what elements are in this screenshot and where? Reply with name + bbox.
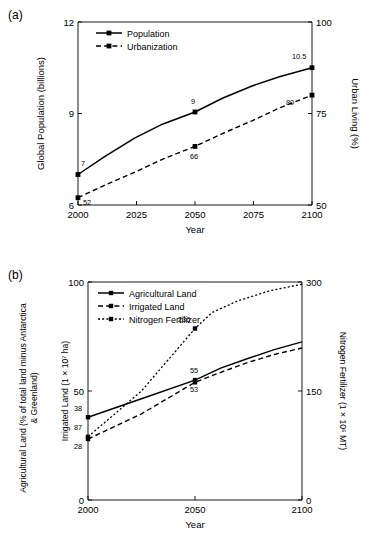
panel-b-xtick-2: 2100 [291, 504, 312, 515]
panel-a-xtick-1: 2025 [126, 209, 147, 220]
panel-b-label-irrig-2050: 53 [190, 385, 198, 394]
panel-a-plot: 6 9 12 50 75 100 2000 2025 [0, 0, 374, 272]
panel-a-label-pop-2050: 9 [191, 97, 195, 106]
panel-b-yaxis-title-inner: Irrigated Land (1 × 10⁷ ha) [60, 341, 70, 441]
panel-a-x-ticks: 2000 2025 2050 2075 2100 [67, 201, 322, 220]
panel-b-label-agri-2050: 55 [190, 366, 198, 375]
legend-b-marker-nitrogen [109, 317, 113, 321]
panel-b-series-nitrogen-line [88, 284, 302, 437]
svg-text:& Greenland): & Greenland) [29, 372, 39, 423]
panel-a-y2tick-2: 100 [316, 17, 332, 28]
panel-b-xaxis-title: Year [185, 519, 204, 530]
panel-a-xtick-2: 2050 [184, 209, 205, 220]
panel-a-y2axis-title: Urban Living (%) [350, 78, 361, 149]
legend-b-label-irrigated: Irrigated Land [129, 302, 185, 312]
panel-b-label: (b) [8, 268, 23, 282]
panel-a-yaxis-title: Global Population (billions) [35, 57, 46, 170]
panel-a-label-pop-2000: 7 [81, 159, 85, 168]
legend-b-marker-agricultural [109, 291, 113, 295]
legend-b-label-agricultural: Agricultural Land [129, 289, 197, 299]
panel-a-xtick-0: 2000 [67, 209, 88, 220]
panel-a-label-pop-2100: 10.5 [292, 52, 306, 61]
scientific-figure: (a) 6 9 12 50 75 100 [0, 0, 374, 553]
panel-a-label-urb-2100: 80 [286, 98, 294, 107]
panel-b-y2axis-title: Nitrogen Fertilizer (1 × 10⁶ MT) [338, 332, 348, 451]
legend-b-label-nitrogen: Nitrogen Fertilizer [129, 315, 200, 325]
panel-a-legend: Population Urbanization [96, 29, 178, 52]
legend-a-marker-urbanization [107, 44, 112, 49]
panel-b-y2tick-2: 300 [306, 277, 322, 288]
panel-b-ytick-2: 100 [68, 277, 84, 288]
panel-a-xtick-4: 2100 [301, 209, 322, 220]
panel-a-ytick-2: 12 [63, 17, 74, 28]
panel-b-plot: 0 50 100 0 150 300 2000 2050 2100 [0, 272, 374, 553]
legend-a-label-population: Population [127, 29, 170, 39]
panel-a-label-urb-2000: 52 [83, 198, 91, 207]
panel-b-y2tick-1: 150 [306, 386, 322, 397]
panel-b-x-ticks: 2000 2050 2100 [77, 496, 312, 515]
panel-a-series-urbanization-markers [76, 93, 315, 200]
legend-b-marker-irrigated [109, 304, 113, 308]
panel-b-series-nitrogen-markers [86, 326, 197, 439]
panel-b-yaxis-title: Agricultural Land (% of total land minus… [18, 303, 39, 493]
panel-a-xtick-3: 2075 [243, 209, 264, 220]
panel-b-xtick-0: 2000 [77, 504, 98, 515]
panel-a: (a) 6 9 12 50 75 100 [0, 0, 374, 272]
panel-a-y2tick-1: 75 [316, 108, 327, 119]
panel-a-left-ticks: 6 9 12 [63, 17, 82, 211]
panel-b-series-irrigated-markers [86, 380, 197, 441]
svg-text:Agricultural Land (% of total: Agricultural Land (% of total land minus… [18, 303, 28, 493]
panel-b: (b) 0 50 100 0 150 3 [0, 272, 374, 553]
panel-b-label-agri-2000: 38 [74, 404, 82, 413]
panel-b-xtick-1: 2050 [184, 504, 205, 515]
legend-a-label-urbanization: Urbanization [127, 42, 178, 52]
panel-a-label-urb-2050: 66 [190, 152, 198, 161]
panel-a-label: (a) [8, 8, 23, 22]
panel-b-legend: Agricultural Land Irrigated Land Nitroge… [98, 289, 200, 325]
panel-b-ytick-1: 50 [73, 386, 84, 397]
panel-a-xaxis-title: Year [185, 224, 204, 235]
panel-b-label-irrig-2000: 28 [74, 442, 82, 451]
panel-a-ytick-1: 9 [69, 108, 74, 119]
legend-a-marker-population [107, 31, 112, 36]
panel-b-label-nitrogen-2000: 87 [74, 423, 82, 432]
